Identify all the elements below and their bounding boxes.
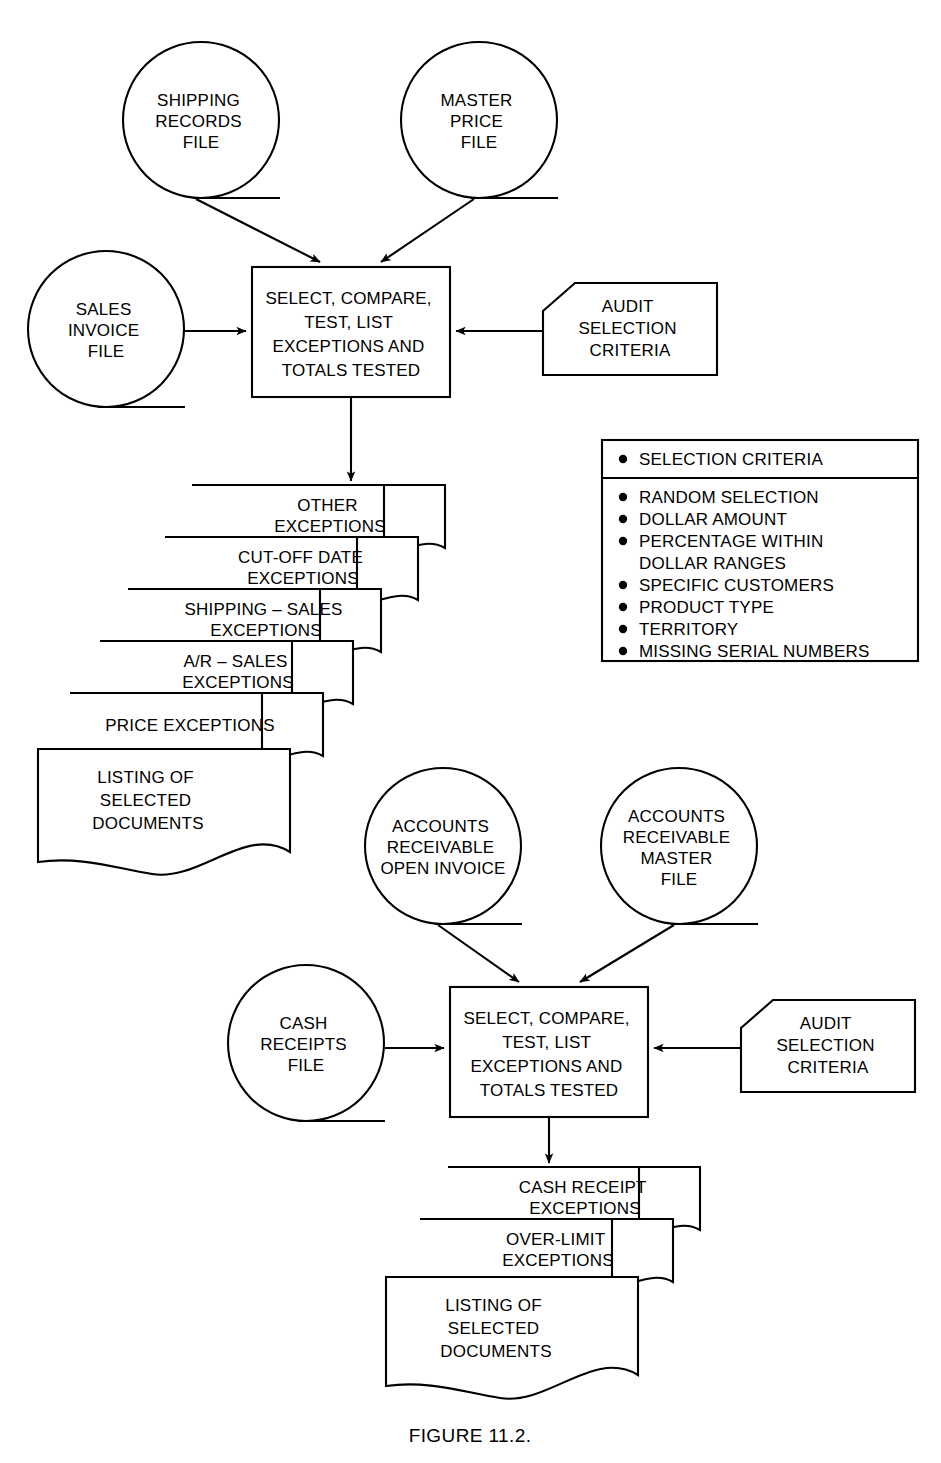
criteria-header-bullet: [619, 455, 627, 463]
over-limit-exceptions-label: OVER-LIMIT EXCEPTIONS: [502, 1230, 614, 1270]
cash-process-box: SELECT, COMPARE, TEST, LIST EXCEPTIONS A…: [450, 987, 648, 1117]
price-exceptions-document: PRICE EXCEPTIONS: [70, 693, 323, 757]
cut-off-date-exceptions-label: CUT-OFF DATE EXCEPTIONS: [238, 548, 368, 588]
listing-of-selected-documents-cash-label: LISTING OF SELECTED DOCUMENTS: [440, 1296, 551, 1361]
connector-shipping-to-process: [196, 199, 320, 262]
criteria-item-7: MISSING SERIAL NUMBERS: [639, 642, 869, 661]
audit-selection-criteria-cash-shape: AUDIT SELECTION CRITERIA: [741, 1000, 915, 1092]
criteria-item-4: SPECIFIC CUSTOMERS: [639, 576, 834, 595]
master-price-file-tape: MASTER PRICE FILE: [401, 42, 558, 198]
ar-open-invoice-file-tape: ACCOUNTS RECEIVABLE OPEN INVOICE: [365, 768, 522, 924]
connector-master-price-to-process: [381, 199, 474, 262]
criteria-bullet-5: [619, 603, 627, 611]
connector-ar-open-invoice-to-process: [438, 925, 519, 982]
criteria-item-2: PERCENTAGE WITHIN: [639, 532, 823, 551]
over-limit-exceptions-document: OVER-LIMIT EXCEPTIONS: [420, 1219, 673, 1283]
listing-of-selected-documents-cash-document: LISTING OF SELECTED DOCUMENTS: [386, 1277, 638, 1399]
ar-sales-exceptions-label: A/R – SALES EXCEPTIONS: [182, 652, 294, 692]
flowchart-diagram: SHIPPING RECORDS FILE MASTER PRICE FILE …: [0, 0, 941, 1463]
price-exceptions-label: PRICE EXCEPTIONS: [105, 716, 274, 735]
criteria-item-6: TERRITORY: [639, 620, 738, 639]
criteria-item-3: DOLLAR RANGES: [639, 554, 786, 573]
ar-master-file-tape: ACCOUNTS RECEIVABLE MASTER FILE: [601, 768, 758, 924]
sales-invoice-file-tape: SALES INVOICE FILE: [28, 251, 185, 407]
other-exceptions-label: OTHER EXCEPTIONS: [274, 496, 386, 536]
ar-open-invoice-file-label: ACCOUNTS RECEIVABLE OPEN INVOICE: [380, 817, 505, 878]
sales-process-box: SELECT, COMPARE, TEST, LIST EXCEPTIONS A…: [252, 267, 450, 397]
criteria-bullet-7: [619, 647, 627, 655]
criteria-bullet-0: [619, 493, 627, 501]
cash-receipts-file-tape: CASH RECEIPTS FILE: [228, 965, 385, 1121]
cash-receipt-exceptions-label: CASH RECEIPT EXCEPTIONS: [519, 1178, 652, 1218]
listing-of-selected-documents-sales-document: LISTING OF SELECTED DOCUMENTS: [38, 749, 290, 875]
audit-selection-criteria-sales-shape: AUDIT SELECTION CRITERIA: [543, 283, 717, 375]
selection-criteria-panel: SELECTION CRITERIA RANDOM SELECTION DOLL…: [602, 440, 918, 661]
criteria-bullet-1: [619, 515, 627, 523]
selection-criteria-header: SELECTION CRITERIA: [639, 450, 823, 469]
shipping-records-file-tape: SHIPPING RECORDS FILE: [123, 42, 280, 198]
connector-ar-master-to-process: [580, 925, 674, 982]
criteria-item-0: RANDOM SELECTION: [639, 488, 819, 507]
figure-caption: FIGURE 11.2.: [409, 1425, 532, 1446]
criteria-item-1: DOLLAR AMOUNT: [639, 510, 787, 529]
criteria-bullet-6: [619, 625, 627, 633]
listing-of-selected-documents-sales-label: LISTING OF SELECTED DOCUMENTS: [92, 768, 203, 833]
criteria-bullet-4: [619, 581, 627, 589]
criteria-bullet-2: [619, 537, 627, 545]
criteria-item-5: PRODUCT TYPE: [639, 598, 774, 617]
